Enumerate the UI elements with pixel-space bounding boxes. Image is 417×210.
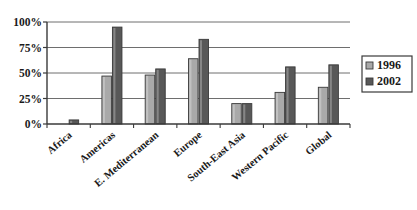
bar-highlight [103, 77, 105, 123]
bar-highlight [330, 66, 332, 123]
y-tick-label: 25% [19, 93, 42, 105]
bar-highlight [276, 93, 278, 123]
gridlines [47, 22, 350, 99]
bar-highlight [243, 105, 245, 124]
bar-highlight [233, 105, 235, 124]
bar-highlight [189, 60, 191, 123]
bar-highlight [200, 40, 202, 123]
y-tick-label: 75% [19, 42, 42, 54]
legend-label-2002: 2002 [377, 74, 401, 88]
y-tick-label: 100% [13, 16, 42, 28]
x-tick-label: Europe [171, 129, 204, 159]
x-tick-label: Global [303, 129, 333, 157]
bar-highlight [319, 88, 321, 123]
bars-layer [69, 27, 338, 124]
bar-highlight [113, 28, 115, 123]
legend: 1996 2002 [362, 56, 412, 92]
legend-swatch-2002 [366, 78, 373, 85]
bar-chart: 100% 75% 50% 25% 0% AfricaAmericasE. Med… [0, 0, 417, 210]
y-tick-label: 0% [25, 118, 42, 130]
x-axis-labels: AfricaAmericasE. MediterraneanEuropeSout… [45, 129, 334, 189]
y-axis-labels: 100% 75% 50% 25% 0% [13, 16, 42, 130]
x-tick-label: Africa [45, 129, 75, 156]
bar-highlight [157, 70, 159, 123]
legend-label-1996: 1996 [377, 58, 401, 72]
bar-highlight [146, 76, 148, 123]
y-tick-label: 50% [19, 67, 42, 79]
bar-highlight [70, 121, 72, 123]
bar-highlight [286, 68, 288, 123]
chart-canvas: 100% 75% 50% 25% 0% AfricaAmericasE. Med… [0, 0, 417, 210]
legend-swatch-1996 [366, 62, 373, 69]
x-tick-label: Americas [78, 129, 118, 165]
